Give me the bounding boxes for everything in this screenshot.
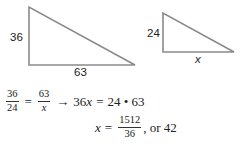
variable-x: x [86,95,92,108]
equals-sign: = [105,121,112,134]
fraction-63-over-x: 63 x [38,89,51,113]
small-triangle-base-label: x [195,54,201,66]
denominator: x [42,102,47,114]
solution-value: , or 42 [143,121,177,134]
denominator: 24 [7,102,18,114]
solution-equation-line: x = 1512 36 , or 42 [95,115,177,139]
numerator: 1512 [118,115,141,128]
variable-x: x [95,121,101,134]
implies-arrow: → [56,95,69,108]
equals-sign: = [96,95,103,108]
numerator: 36 [6,89,19,102]
numerator: 63 [38,89,51,102]
fraction-36-over-24: 36 24 [6,89,19,113]
large-triangle-base-label: 63 [74,67,87,79]
proportion-equation-line: 36 24 = 63 x → 36x = 24 • 63 [4,89,145,113]
equals-sign: = [25,95,32,108]
large-triangle-height-label: 36 [10,32,23,44]
cross-product-coefficient: 36 [73,95,86,108]
denominator: 36 [124,128,135,140]
cross-product-rhs: 24 • 63 [107,95,144,108]
large-triangle [29,7,135,65]
small-triangle [163,13,234,52]
small-triangle-height-label: 24 [147,28,160,40]
fraction-1512-over-36: 1512 36 [118,115,141,139]
